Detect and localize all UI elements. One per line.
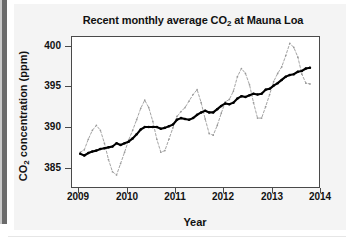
series-data-point (79, 153, 82, 156)
series-data-point (212, 134, 214, 136)
series-data-point (244, 96, 247, 99)
series-data-point (116, 174, 118, 176)
series-data-point (164, 127, 167, 130)
series-data-point (148, 107, 150, 109)
series-data-point (249, 84, 251, 86)
series-data-point (265, 106, 267, 108)
series-data-point (305, 82, 307, 84)
series-data-point (273, 81, 275, 83)
series-line (80, 43, 310, 175)
series-data-point (160, 151, 162, 153)
series-data-point (232, 101, 235, 104)
series-data-point (272, 84, 275, 87)
series-data-point (196, 114, 199, 117)
series-data-point (103, 147, 106, 150)
series-data-point (285, 55, 287, 57)
series-data-point (241, 68, 243, 70)
series-data-point (127, 140, 130, 143)
series-data-point (184, 107, 186, 109)
series-data-point (91, 150, 94, 153)
chart-title-suffix: at Mauna Loa (231, 14, 303, 26)
series-data-point (216, 125, 218, 127)
series-data-point (257, 117, 259, 119)
series-data-point (172, 123, 175, 126)
plot-series-layer (71, 36, 320, 188)
x-axis-title: Year (68, 216, 322, 228)
series-data-point (188, 118, 191, 121)
series-data-point (208, 133, 210, 135)
series-data-point (256, 93, 259, 96)
series-data-point (180, 117, 183, 120)
series-data-point (309, 83, 311, 85)
series-data-point (309, 66, 312, 69)
series-data-point (95, 149, 98, 152)
y-axis-title: CO2 concentration (ppm) (17, 31, 29, 201)
series-data-point (192, 117, 195, 120)
series-data-point (285, 75, 288, 78)
series-data-point (245, 73, 247, 75)
series-data-point (156, 138, 158, 140)
y-tick-label: 390 (31, 122, 61, 132)
series-data-point (96, 125, 98, 127)
y-tick-mark (65, 86, 71, 87)
x-tick-label: 2013 (252, 192, 292, 202)
series-data-point (99, 148, 102, 151)
series-line (80, 68, 310, 156)
series-data-point (92, 129, 94, 131)
series-data-point (212, 111, 215, 114)
x-tick-label: 2012 (203, 192, 243, 202)
series-data-point (261, 117, 263, 119)
chart-title: Recent monthly average CO2 at Mauna Loa (48, 14, 338, 26)
series-data-point (281, 66, 283, 68)
series-data-point (240, 95, 243, 98)
x-tick-label: 2010 (107, 192, 147, 202)
series-data-point (301, 73, 303, 75)
series-data-point (233, 90, 235, 92)
series-data-point (269, 94, 271, 96)
series-data-point (135, 133, 138, 136)
series-data-point (264, 88, 267, 91)
series-data-point (131, 137, 134, 140)
series-data-point (208, 111, 211, 114)
series-data-point (87, 152, 90, 155)
series-data-point (188, 100, 190, 102)
y-axis-title-subscript: 2 (22, 160, 31, 164)
y-axis-title-prefix: CO (17, 165, 29, 182)
series-data-point (144, 99, 146, 101)
series-data-point (176, 116, 178, 118)
series-data-point (140, 107, 142, 109)
series-data-point (143, 126, 146, 129)
series-data-point (83, 154, 86, 157)
chart-title-subscript: 2 (227, 19, 231, 28)
series-data-point (108, 159, 110, 161)
series-data-point (301, 70, 304, 73)
series-data-point (176, 118, 179, 121)
series-data-point (136, 119, 138, 121)
series-data-point (200, 111, 203, 114)
series-data-point (139, 128, 142, 131)
series-data-point (180, 111, 182, 113)
series-data-point (164, 150, 166, 152)
series-data-point (276, 82, 279, 85)
series-data-point (112, 171, 114, 173)
series-data-point (107, 146, 110, 149)
series-data-point (123, 142, 126, 145)
series-data-point (305, 67, 308, 70)
series-data-point (200, 102, 202, 104)
y-tick-label: 400 (31, 41, 61, 51)
series-data-point (277, 73, 279, 75)
series-data-point (248, 94, 251, 97)
x-tick-label: 2014 (300, 192, 340, 202)
series-data-point (220, 105, 223, 108)
series-data-point (297, 56, 299, 58)
series-data-point (115, 142, 118, 145)
series-data-point (192, 94, 194, 96)
series-data-point (268, 88, 271, 91)
y-tick-label: 395 (31, 81, 61, 91)
series-data-point (152, 121, 154, 123)
series-data-point (224, 102, 227, 105)
series-data-point (216, 108, 219, 111)
series-data-point (236, 97, 239, 100)
series-data-point (160, 127, 163, 130)
series-data-point (119, 144, 122, 147)
